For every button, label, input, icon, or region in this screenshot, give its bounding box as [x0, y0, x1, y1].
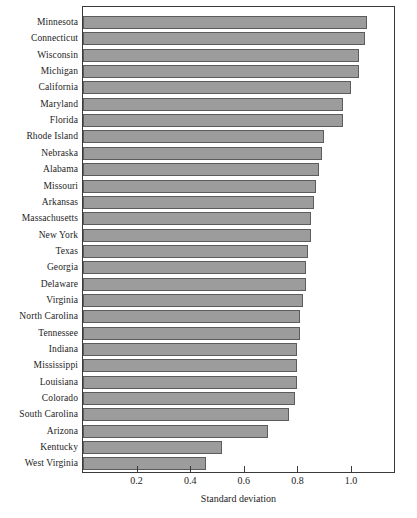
- x-axis-tick-label: 1.0: [331, 475, 371, 487]
- y-axis-label: Michigan: [0, 66, 78, 76]
- bar: [83, 392, 295, 405]
- x-axis-title: Standard deviation: [82, 492, 395, 505]
- y-axis-label: Indiana: [0, 344, 78, 354]
- bar: [83, 49, 359, 62]
- x-axis-tick: [351, 466, 352, 473]
- y-axis-label: Connecticut: [0, 33, 78, 43]
- y-axis-label: Florida: [0, 115, 78, 125]
- y-axis-label: West Virginia: [0, 458, 78, 468]
- x-axis-tick: [137, 466, 138, 473]
- bar-row: [83, 294, 394, 307]
- y-axis-label: Minnesota: [0, 17, 78, 27]
- bar: [83, 65, 359, 78]
- bar: [83, 212, 311, 225]
- bar-row: [83, 245, 394, 258]
- x-axis-tick-label: 0.4: [170, 475, 210, 487]
- bar-row: [83, 327, 394, 340]
- y-axis-label: Louisiana: [0, 377, 78, 387]
- bar: [83, 425, 268, 438]
- bar: [83, 98, 343, 111]
- y-axis-label: Delaware: [0, 279, 78, 289]
- bar-row: [83, 147, 394, 160]
- bar: [83, 114, 343, 127]
- bar: [83, 130, 324, 143]
- y-axis-label: Nebraska: [0, 148, 78, 158]
- bar-row: [83, 425, 394, 438]
- bar: [83, 376, 297, 389]
- bar: [83, 245, 308, 258]
- y-axis-label: Missouri: [0, 181, 78, 191]
- x-axis-tick: [244, 466, 245, 473]
- y-axis-label: Virginia: [0, 295, 78, 305]
- y-axis-label: Texas: [0, 246, 78, 256]
- bar-row: [83, 441, 394, 454]
- bar-row: [83, 310, 394, 323]
- bar-row: [83, 359, 394, 372]
- bar-row: [83, 229, 394, 242]
- bar: [83, 359, 297, 372]
- bar-row: [83, 16, 394, 29]
- bar: [83, 16, 367, 29]
- x-axis-tick-label: 0.2: [117, 475, 157, 487]
- bar-row: [83, 376, 394, 389]
- y-axis-label: Rhode Island: [0, 131, 78, 141]
- bar-row: [83, 196, 394, 209]
- bar-row: [83, 163, 394, 176]
- y-axis-label: Alabama: [0, 164, 78, 174]
- y-axis-label: Arkansas: [0, 197, 78, 207]
- y-axis-label: Massachusetts: [0, 213, 78, 223]
- bar-row: [83, 98, 394, 111]
- bar-row: [83, 278, 394, 291]
- bar: [83, 32, 365, 45]
- bar: [83, 343, 297, 356]
- y-axis-label: Kentucky: [0, 442, 78, 452]
- x-axis-tick: [190, 466, 191, 473]
- y-axis-label: Georgia: [0, 262, 78, 272]
- bar-row: [83, 261, 394, 274]
- bar: [83, 147, 322, 160]
- bar-row: [83, 65, 394, 78]
- bar: [83, 310, 300, 323]
- bar: [83, 180, 316, 193]
- bar: [83, 261, 306, 274]
- bar: [83, 81, 351, 94]
- bar: [83, 278, 306, 291]
- y-axis-label: California: [0, 82, 78, 92]
- y-axis-label: North Carolina: [0, 311, 78, 321]
- bar: [83, 229, 311, 242]
- bar-row: [83, 343, 394, 356]
- y-axis-label: Mississippi: [0, 360, 78, 370]
- bar: [83, 441, 222, 454]
- bar-row: [83, 114, 394, 127]
- bar-row: [83, 130, 394, 143]
- bar: [83, 196, 314, 209]
- bar-row: [83, 49, 394, 62]
- y-axis-label: Arizona: [0, 426, 78, 436]
- x-axis-tick-label: 0.6: [224, 475, 264, 487]
- y-axis-label: South Carolina: [0, 409, 78, 419]
- bar-row: [83, 81, 394, 94]
- bar: [83, 163, 319, 176]
- bar-chart-figure: MinnesotaConnecticutWisconsinMichiganCal…: [0, 0, 417, 518]
- x-axis-tick: [297, 466, 298, 473]
- y-axis-label: Wisconsin: [0, 50, 78, 60]
- y-axis-label: Tennessee: [0, 328, 78, 338]
- bar: [83, 408, 289, 421]
- y-axis-label: Colorado: [0, 393, 78, 403]
- y-axis-label: Maryland: [0, 99, 78, 109]
- bar: [83, 327, 300, 340]
- x-axis-tick-label: 0.8: [277, 475, 317, 487]
- y-axis-category-labels: MinnesotaConnecticutWisconsinMichiganCal…: [0, 7, 78, 466]
- bar-row: [83, 408, 394, 421]
- bar-row: [83, 32, 394, 45]
- bar-row: [83, 392, 394, 405]
- bar-row: [83, 212, 394, 225]
- y-axis-label: New York: [0, 230, 78, 240]
- x-axis-tick-labels: 0.20.40.60.81.0: [0, 475, 417, 489]
- bar-row: [83, 180, 394, 193]
- bar: [83, 294, 303, 307]
- bars-layer: [83, 7, 394, 466]
- x-axis-ticks: [82, 466, 395, 473]
